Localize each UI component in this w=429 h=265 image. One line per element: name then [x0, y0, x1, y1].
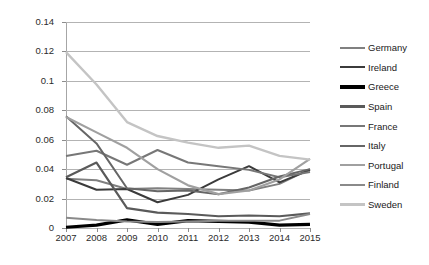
series-line-france	[66, 150, 310, 177]
gridline	[66, 22, 310, 23]
series-line-spain	[66, 163, 310, 217]
legend-label: Greece	[368, 81, 399, 92]
line-chart: 00.020.040.060.080.10.120.14 20072008200…	[0, 0, 429, 265]
x-tick-label: 2007	[49, 232, 83, 243]
legend-swatch-icon	[340, 85, 365, 88]
legend-swatch-icon	[340, 47, 365, 49]
x-tick-label: 2011	[171, 232, 205, 243]
legend-swatch-icon	[340, 184, 365, 186]
legend-label: Sweden	[368, 199, 402, 210]
gridline	[66, 199, 310, 200]
series-line-greece	[66, 220, 310, 227]
legend-item-portugal[interactable]: Portugal	[340, 156, 429, 176]
legend-item-france[interactable]: France	[340, 116, 429, 136]
legend-label: Finland	[368, 179, 399, 190]
gridline	[66, 81, 310, 82]
y-tick-label: 0.1	[16, 76, 54, 86]
x-tick-label: 2015	[293, 232, 327, 243]
legend-item-sweden[interactable]: Sweden	[340, 195, 429, 215]
y-tick-label: 0.12	[16, 46, 54, 56]
legend-item-ireland[interactable]: Ireland	[340, 58, 429, 78]
legend-label: Portugal	[368, 160, 403, 171]
legend-label: Spain	[368, 101, 392, 112]
legend-swatch-icon	[340, 164, 365, 166]
gridline	[66, 169, 310, 170]
y-tick-label: 0.02	[16, 194, 54, 204]
y-tick-label: 0.08	[16, 105, 54, 115]
x-tick-label: 2010	[141, 232, 175, 243]
series-line-ireland	[66, 166, 310, 202]
legend-label: Germany	[368, 42, 407, 53]
series-line-finland	[66, 214, 310, 222]
gridline	[66, 51, 310, 52]
chart-legend: GermanyIrelandGreeceSpainFranceItalyPort…	[340, 38, 429, 214]
y-tick-label: 0.04	[16, 164, 54, 174]
series-line-germany	[66, 169, 310, 190]
legend-item-italy[interactable]: Italy	[340, 136, 429, 156]
legend-swatch-icon	[340, 203, 365, 205]
x-tick-label: 2014	[263, 232, 297, 243]
x-tick-label: 2008	[80, 232, 114, 243]
legend-item-finland[interactable]: Finland	[340, 175, 429, 195]
legend-item-germany[interactable]: Germany	[340, 38, 429, 58]
legend-swatch-icon	[340, 145, 365, 147]
x-tick-label: 2012	[202, 232, 236, 243]
series-line-sweden	[66, 52, 310, 159]
legend-item-greece[interactable]: Greece	[340, 77, 429, 97]
y-axis	[66, 22, 67, 229]
legend-label: Ireland	[368, 62, 397, 73]
legend-item-spain[interactable]: Spain	[340, 97, 429, 117]
gridline	[66, 110, 310, 111]
series-line-portugal	[66, 117, 310, 194]
legend-swatch-icon	[340, 125, 365, 127]
gridline	[66, 140, 310, 141]
y-tick-label: 0.06	[16, 135, 54, 145]
x-tick-label: 2009	[110, 232, 144, 243]
legend-swatch-icon	[340, 105, 365, 107]
x-tick-label: 2013	[232, 232, 266, 243]
legend-label: France	[368, 121, 398, 132]
legend-label: Italy	[368, 140, 385, 151]
legend-swatch-icon	[340, 66, 365, 68]
series-line-italy	[66, 116, 310, 194]
y-tick-label: 0.14	[16, 17, 54, 27]
